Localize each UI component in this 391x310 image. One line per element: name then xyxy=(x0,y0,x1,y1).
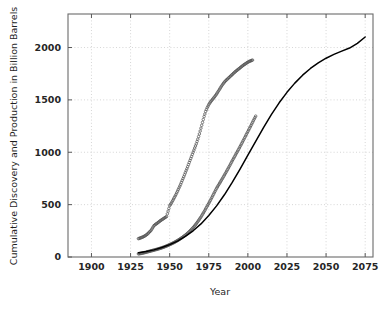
x-tick-label: 2075 xyxy=(352,261,378,272)
x-tick-label: 2025 xyxy=(274,261,300,272)
x-tick-label: 1950 xyxy=(156,261,183,272)
y-tick-label: 500 xyxy=(41,199,61,210)
x-tick-label: 2050 xyxy=(313,261,340,272)
x-tick-label: 1925 xyxy=(117,261,143,272)
cumulative-discovery-production-chart: 19001925195019752000202520502075 0500100… xyxy=(0,0,391,310)
x-tick-label: 1975 xyxy=(196,261,222,272)
y-tick-label: 0 xyxy=(54,251,61,262)
x-tick-label: 2000 xyxy=(235,261,262,272)
x-axis-title: Year xyxy=(209,286,230,297)
y-tick-label: 1000 xyxy=(35,147,62,158)
y-tick-label: 2000 xyxy=(35,42,62,53)
x-tick-label: 1900 xyxy=(78,261,105,272)
y-axis-title: Cumulative Discovery and Production in B… xyxy=(8,7,19,266)
y-tick-label: 1500 xyxy=(35,94,62,105)
chart-figure: 19001925195019752000202520502075 0500100… xyxy=(0,0,391,310)
